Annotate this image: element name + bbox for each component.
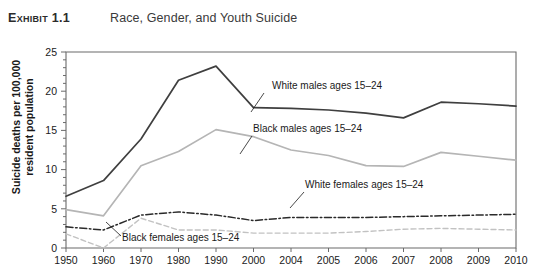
source-note-cropped <box>8 271 338 278</box>
series-annotation-label: White males ages 15–24 <box>272 80 383 91</box>
x-axis-tick-label: 2008 <box>429 254 453 266</box>
x-axis-tick-label: 1970 <box>129 254 153 266</box>
y-axis-tick-label: 15 <box>45 124 57 136</box>
series-annotation-label: Black males ages 15–24 <box>253 123 362 134</box>
annotation-leader-line <box>106 222 121 236</box>
annotation-leader-line <box>290 192 304 208</box>
series-line <box>66 130 516 216</box>
y-axis-tick-label: 5 <box>51 203 57 215</box>
y-axis-tick-label: 20 <box>45 85 57 97</box>
figure-title: Race, Gender, and Youth Suicide <box>110 11 297 25</box>
line-chart: Suicide deaths per 100,000 resident popu… <box>0 36 537 278</box>
x-axis-tick-label: 2006 <box>354 254 378 266</box>
annotation-leader-line <box>251 93 264 112</box>
annotation-leader-line <box>240 136 252 154</box>
x-axis-tick-label: 1950 <box>54 254 78 266</box>
x-axis-tick-label: 2004 <box>279 254 303 266</box>
x-axis-tick-label: 1990 <box>204 254 228 266</box>
series-line <box>66 212 516 230</box>
y-axis-tick-label: 0 <box>51 242 57 254</box>
x-axis-tick-label: 2000 <box>242 254 266 266</box>
series-annotation-label: White females ages 15–24 <box>305 179 424 190</box>
series-annotation-label: Black females ages 15–24 <box>122 232 240 243</box>
exhibit-figure: Exhibit 1.1 Race, Gender, and Youth Suic… <box>0 0 537 278</box>
y-axis-tick-label: 10 <box>45 163 57 175</box>
x-axis-tick-label: 2010 <box>504 254 528 266</box>
x-axis-tick-label: 2007 <box>392 254 416 266</box>
figure-header: Exhibit 1.1 Race, Gender, and Youth Suic… <box>0 8 537 32</box>
x-axis-tick-label: 2005 <box>317 254 341 266</box>
y-axis-tick-label: 25 <box>45 46 57 58</box>
chart-svg: 0510152025195019601970198019902000200420… <box>0 36 537 278</box>
x-axis-tick-label: 1960 <box>92 254 116 266</box>
exhibit-number: Exhibit 1.1 <box>8 11 70 25</box>
x-axis-tick-label: 1980 <box>167 254 191 266</box>
x-axis-tick-label: 2009 <box>467 254 491 266</box>
